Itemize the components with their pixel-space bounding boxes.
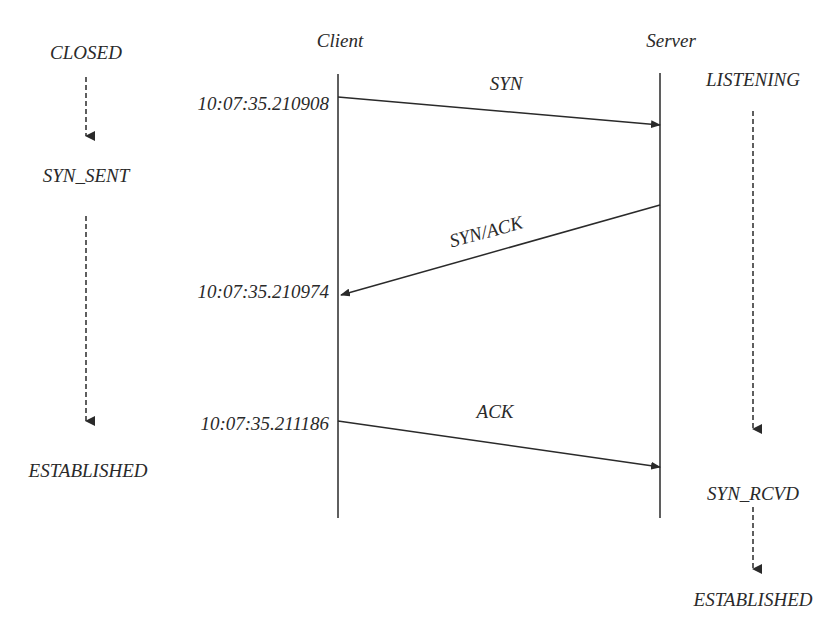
server-header: Server <box>646 31 696 50</box>
client-header: Client <box>317 31 363 50</box>
diagram-canvas <box>0 0 839 624</box>
client-state-closed: CLOSED <box>50 43 122 62</box>
server-state-established: ESTABLISHED <box>694 590 813 609</box>
timestamp-syn: 10:07:35.210908 <box>198 94 329 113</box>
server-state-syn-rcvd: SYN_RCVD <box>707 484 799 503</box>
client-state-established: ESTABLISHED <box>29 461 148 480</box>
syn-label: SYN <box>490 74 523 93</box>
syn-arrow <box>338 97 660 125</box>
ack-arrow <box>338 421 660 467</box>
server-state-listening: LISTENING <box>706 70 800 89</box>
ack-label: ACK <box>477 402 514 421</box>
timestamp-ack: 10:07:35.211186 <box>200 414 329 433</box>
client-state-syn-sent: SYN_SENT <box>43 166 130 185</box>
timestamp-syn-ack: 10:07:35.210974 <box>198 282 329 301</box>
